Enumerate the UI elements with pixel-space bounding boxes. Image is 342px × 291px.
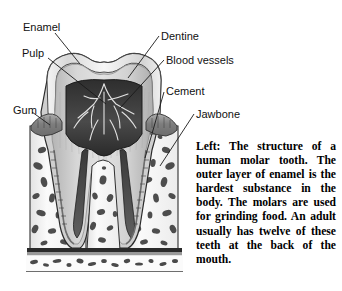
label-enamel: Enamel	[23, 21, 60, 33]
jawbone-base-band	[26, 248, 183, 272]
label-cement: Cement	[166, 85, 205, 97]
figure-caption: Left: The structure of a human molar too…	[196, 140, 336, 267]
label-pulp: Pulp	[22, 47, 44, 59]
tooth-anatomy-figure: Enamel Pulp Gum Dentine Blood vessels Ce…	[0, 0, 342, 291]
label-blood-vessels: Blood vessels	[166, 54, 234, 66]
label-jawbone: Jawbone	[196, 108, 240, 120]
label-dentine: Dentine	[161, 30, 199, 42]
label-gum: Gum	[13, 104, 37, 116]
